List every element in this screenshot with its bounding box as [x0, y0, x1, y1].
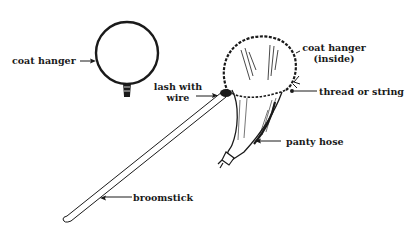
panty-hose-net: [218, 90, 282, 168]
insect-net-diagram: coat hanger lash with wire coat hanger (…: [0, 0, 417, 233]
coat-hanger-loop: [80, 22, 158, 96]
label-lash-with-wire-line2: wire: [152, 92, 204, 103]
label-broomstick: broomstick: [133, 192, 193, 203]
label-lash-with-wire-line1: lash with: [152, 81, 204, 92]
label-coat-hanger-inside-line2: (inside): [300, 53, 368, 64]
label-lash-with-wire: lash with wire: [152, 81, 204, 103]
label-coat-hanger: coat hanger: [12, 55, 76, 66]
net-rim: [220, 36, 300, 97]
label-thread-or-string: thread or string: [319, 86, 404, 97]
label-panty-hose: panty hose: [286, 136, 344, 147]
diagram-drawing: [0, 0, 417, 233]
label-coat-hanger-inside-line1: coat hanger: [300, 42, 368, 53]
label-coat-hanger-inside: coat hanger (inside): [300, 42, 368, 64]
